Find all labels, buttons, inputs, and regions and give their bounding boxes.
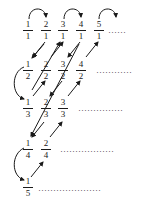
fraction-2-3: 23: [40, 98, 52, 119]
fraction-4-2: 42: [75, 60, 87, 81]
curve-arrow-1-2: [29, 9, 46, 19]
fraction-2-1: 21: [40, 20, 52, 41]
fraction-4-1: 41: [75, 20, 87, 41]
arrow-r1r2-b: [51, 42, 63, 57]
fraction-1-2: 12: [22, 60, 34, 81]
fraction-2-4: 24: [40, 139, 52, 160]
row3-continuation: ……………: [78, 103, 123, 113]
arrow-r1r2-a: [33, 42, 45, 57]
fraction-1-1: 11: [22, 20, 34, 41]
arrow-r2r3-a: [33, 81, 45, 96]
fraction-3-1: 31: [57, 20, 69, 41]
fraction-3-2: 32: [57, 60, 69, 81]
arrow-r2r3-b: [50, 81, 62, 96]
fraction-5-1: 51: [93, 20, 105, 41]
curve-arrow-5-6: [99, 9, 116, 19]
row5-continuation: …………………: [38, 183, 101, 193]
fraction-1-4: 14: [22, 139, 34, 160]
curve-arrow-3-4: [64, 9, 81, 19]
arrow-r1r2-c: [68, 42, 80, 57]
row2-continuation: …………: [96, 65, 132, 75]
fraction-2-2: 22: [40, 60, 52, 81]
arrow-r2r3-c: [68, 81, 80, 96]
row1-continuation: ……: [108, 25, 126, 35]
fraction-1-5: 15: [22, 177, 34, 198]
arrow-r3r4-b: [50, 122, 62, 137]
fraction-3-3: 33: [57, 98, 69, 119]
row4-continuation: ………………: [60, 144, 114, 154]
fraction-1-3: 13: [22, 98, 34, 119]
arrow-r3r4-a: [32, 122, 44, 137]
